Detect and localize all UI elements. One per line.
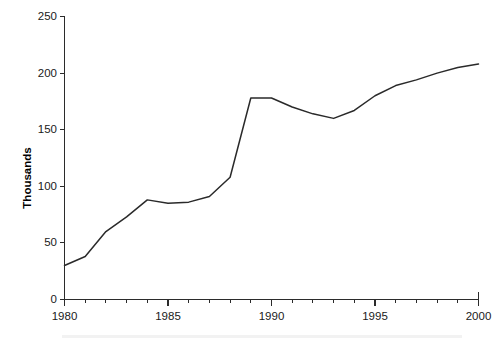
y-tick-label-200: 200 xyxy=(38,67,57,79)
chart-canvas: Thousands 250 200 150 100 50 0 xyxy=(0,0,500,342)
x-tick-label-1980: 1980 xyxy=(52,310,78,322)
scan-artifact xyxy=(62,335,462,338)
y-tick-label-150: 150 xyxy=(38,123,57,135)
x-tick-label-1995: 1995 xyxy=(362,310,388,322)
y-tick-label-250: 250 xyxy=(38,10,57,22)
line-chart: Thousands 250 200 150 100 50 0 xyxy=(0,0,500,342)
y-tick-label-50: 50 xyxy=(44,236,57,248)
data-series-line xyxy=(65,64,479,266)
x-tick-label-1990: 1990 xyxy=(259,310,285,322)
x-tick-label-1985: 1985 xyxy=(155,310,181,322)
y-tick-label-0: 0 xyxy=(51,293,57,305)
y-tick-label-100: 100 xyxy=(38,180,57,192)
y-axis-title: Thousands xyxy=(21,147,33,208)
x-tick-label-2000: 2000 xyxy=(466,310,492,322)
x-axis-line xyxy=(65,292,479,300)
x-axis-ticks xyxy=(65,300,479,307)
